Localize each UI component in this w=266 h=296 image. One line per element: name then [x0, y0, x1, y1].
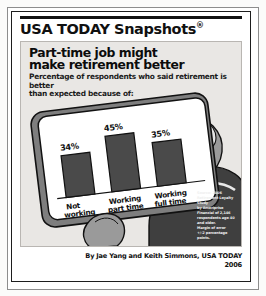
- snapshot-infographic: USA TODAY Snapshots® Part-time job might…: [0, 0, 266, 296]
- source-line-4: by Ameriprise: [197, 206, 224, 210]
- bar-working-part-time: [105, 133, 141, 192]
- masthead-rule: [20, 16, 242, 19]
- headline: Part-time job might make retirement bett…: [29, 47, 234, 72]
- chart-board: 34% Not working 45% Working part time: [30, 92, 221, 229]
- credit-year: 2006: [20, 261, 242, 270]
- source-line-3: Study: [197, 201, 209, 205]
- source-line-2: Retirement Loyalty: [197, 196, 234, 200]
- brand-name: USA TODAY Snapshots: [20, 21, 196, 37]
- source-line-10: points.: [197, 236, 210, 240]
- source-line-8: Margin of error: [197, 226, 226, 230]
- illustration: 34% Not working 45% Working part time: [21, 90, 242, 247]
- bar-not-working: [61, 152, 95, 197]
- credit-byline: By Jae Yang and Keith Simmons, USA TODAY: [85, 252, 242, 260]
- content-panel: Part-time job might make retirement bett…: [20, 41, 242, 247]
- registered-mark-icon: ®: [196, 21, 204, 30]
- source-line-6: respondents age 40: [197, 216, 235, 220]
- illustration-svg: 34% Not working 45% Working part time: [21, 90, 242, 247]
- source-line-1: Source: 2006: [197, 191, 222, 195]
- source-line-9: +/-2 percentage: [197, 231, 228, 235]
- source-line-7: and older.: [197, 221, 216, 225]
- brand-title: USA TODAY Snapshots®: [20, 21, 244, 37]
- source-line-5: Financial of 2,146: [197, 211, 231, 215]
- subhead-line-1: Percentage of respondents who said retir…: [29, 73, 237, 90]
- headline-line-2: make retirement better: [29, 59, 234, 71]
- credit-block: By Jae Yang and Keith Simmons, USA TODAY…: [20, 252, 242, 269]
- bar-working-full-time: [152, 139, 186, 186]
